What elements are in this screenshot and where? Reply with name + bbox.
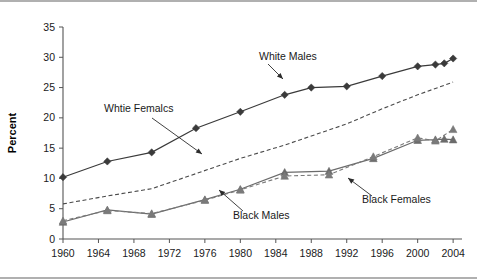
annotation-arrow-head — [348, 178, 354, 184]
x-tick-label: 1992 — [335, 247, 359, 259]
series-marker-triangle — [414, 134, 422, 141]
x-tick-label: 1976 — [193, 247, 217, 259]
figure-frame: 0510152025303519601964196819721976198019… — [0, 0, 477, 279]
series-marker-diamond — [414, 63, 421, 70]
series-marker-diamond — [450, 55, 457, 62]
series-line-3 — [63, 129, 453, 220]
x-tick-label: 2000 — [406, 247, 430, 259]
line-chart: 0510152025303519601964196819721976198019… — [0, 2, 477, 279]
series-marker-diamond — [343, 83, 350, 90]
x-tick-label: 1968 — [122, 247, 146, 259]
y-tick-label: 20 — [43, 111, 55, 123]
series-marker-diamond — [237, 108, 244, 115]
series-label-3: Black Females — [362, 193, 431, 205]
series-marker-diamond — [441, 60, 448, 67]
series-marker-diamond — [192, 125, 199, 132]
series-marker-diamond — [59, 174, 66, 181]
x-tick-label: 2004 — [441, 247, 465, 259]
series-label-1: Whtie Femalcs — [104, 102, 173, 114]
series-marker-diamond — [281, 91, 288, 98]
y-tick-label: 5 — [49, 202, 55, 214]
series-line-1 — [63, 82, 453, 204]
y-tick-label: 0 — [49, 233, 55, 245]
y-tick-label: 15 — [43, 142, 55, 154]
y-tick-label: 30 — [43, 51, 55, 63]
series-marker-diamond — [308, 84, 315, 91]
y-axis-title: Percent — [6, 112, 18, 153]
annotation-arrow-head — [196, 148, 202, 154]
series-marker-triangle — [449, 126, 457, 133]
series-marker-diamond — [148, 149, 155, 156]
series-marker-diamond — [432, 61, 439, 68]
series-label-2: Black Males — [233, 209, 290, 221]
chart-canvas: 0510152025303519601964196819721976198019… — [0, 2, 477, 279]
series-marker-diamond — [379, 72, 386, 79]
series-marker-triangle — [370, 153, 378, 160]
series-marker-diamond — [104, 158, 111, 165]
x-tick-label: 1960 — [51, 247, 75, 259]
x-tick-label: 1996 — [371, 247, 395, 259]
y-tick-label: 35 — [43, 21, 55, 33]
x-tick-label: 1988 — [300, 247, 324, 259]
x-tick-label: 1964 — [87, 247, 111, 259]
series-label-0: White Males — [259, 50, 317, 62]
y-tick-label: 25 — [43, 81, 55, 93]
x-tick-label: 1984 — [264, 247, 288, 259]
x-tick-label: 1980 — [229, 247, 253, 259]
y-tick-label: 10 — [43, 172, 55, 184]
series-line-0 — [63, 59, 453, 178]
x-tick-label: 1972 — [158, 247, 182, 259]
